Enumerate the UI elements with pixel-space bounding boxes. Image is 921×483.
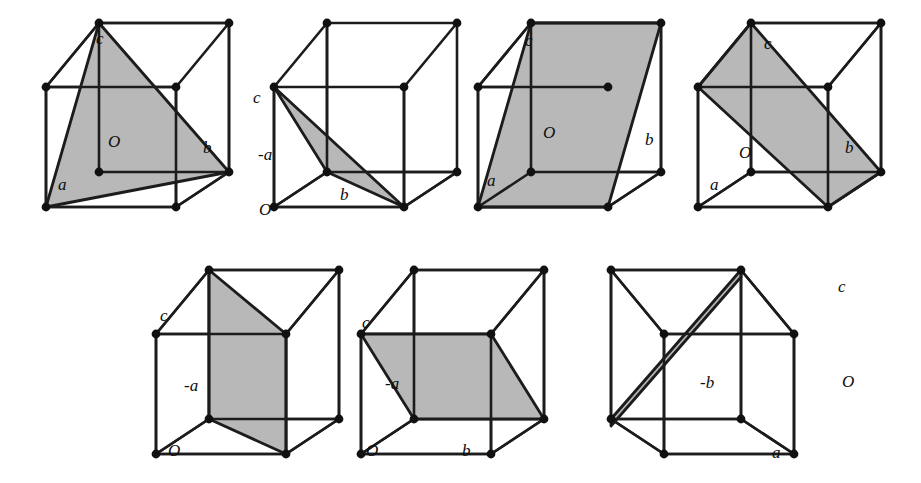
cube-5-plane (209, 270, 286, 454)
label-c: c (764, 35, 772, 52)
label-a: a (772, 444, 781, 461)
label-O: O (168, 442, 180, 459)
label-O: O (366, 442, 378, 459)
label-O: O (108, 133, 120, 150)
cube-2-plane (274, 87, 404, 207)
label-a: a (58, 176, 67, 193)
label-c: c (253, 89, 261, 106)
cube-7-edges (611, 270, 794, 454)
cube-7-edges-front (611, 270, 794, 454)
label-c: c (362, 314, 370, 331)
cube-panel-2 (248, 8, 478, 223)
label-O: O (259, 201, 271, 218)
label-O: O (739, 144, 751, 161)
label-O: O (842, 373, 854, 390)
cube-panel-4 (672, 8, 902, 223)
cube-1-plane (46, 23, 229, 207)
cube-panel-5 (130, 255, 360, 475)
label-minus-a: -a (385, 375, 399, 392)
cube-7-vertices (607, 266, 799, 459)
label-c: c (96, 30, 104, 47)
label-b: b (845, 139, 854, 156)
figure-root: c O b a (0, 0, 921, 483)
label-a: a (487, 172, 496, 189)
label-b: b (645, 131, 654, 148)
label-b: b (203, 139, 212, 156)
label-minus-b: -b (700, 374, 714, 391)
label-O: O (543, 124, 555, 141)
label-b: b (340, 186, 349, 203)
cube-3-plane (478, 23, 661, 207)
label-a: a (710, 176, 719, 193)
label-c: c (525, 32, 533, 49)
label-b: b (462, 442, 471, 459)
cube-panel-1 (20, 8, 250, 223)
cube-panel-7 (590, 255, 840, 475)
cube-4-plane (698, 23, 881, 207)
label-c: c (160, 307, 168, 324)
label-minus-a: -a (184, 377, 198, 394)
label-c: c (838, 278, 846, 295)
label-minus-a: -a (258, 146, 272, 163)
cube-panel-3 (452, 8, 682, 223)
